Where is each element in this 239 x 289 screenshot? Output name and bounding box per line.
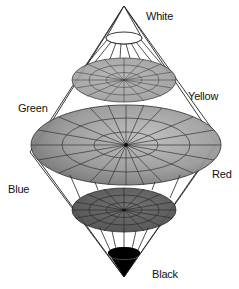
middle-disk: [31, 105, 221, 185]
upper-disk: [72, 58, 176, 102]
label-black: Black: [152, 268, 178, 280]
color-solid-diagram: [0, 0, 239, 289]
label-yellow: Yellow: [188, 90, 218, 102]
label-red: Red: [212, 168, 232, 180]
label-blue: Blue: [8, 183, 29, 195]
label-green: Green: [18, 102, 48, 114]
label-white: White: [146, 10, 173, 22]
lower-disk: [72, 188, 176, 232]
